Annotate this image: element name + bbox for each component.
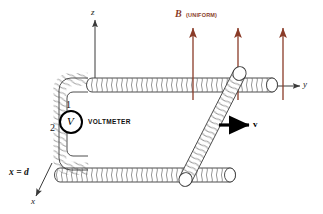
physics-diagram: z y x x = d 1 2 V VOLTMETER B (UNIFORM) … [0, 0, 323, 214]
top-rail [87, 78, 278, 92]
axis-label-x: x [31, 197, 35, 206]
field-label: B [175, 9, 182, 19]
voltmeter-label: VOLTMETER [88, 119, 131, 126]
terminal-2-label: 2 [50, 123, 55, 133]
axis-label-y: y [303, 80, 307, 89]
axis-x [36, 163, 52, 196]
voltmeter-symbol: V [67, 116, 74, 127]
diagram-canvas [0, 0, 323, 214]
terminal-1-label: 1 [66, 100, 71, 110]
axis-label-z: z [91, 8, 95, 17]
field-qualifier-label: (UNIFORM) [186, 13, 217, 19]
x-position-label: x = d [9, 168, 29, 178]
velocity-label: v [253, 120, 258, 129]
